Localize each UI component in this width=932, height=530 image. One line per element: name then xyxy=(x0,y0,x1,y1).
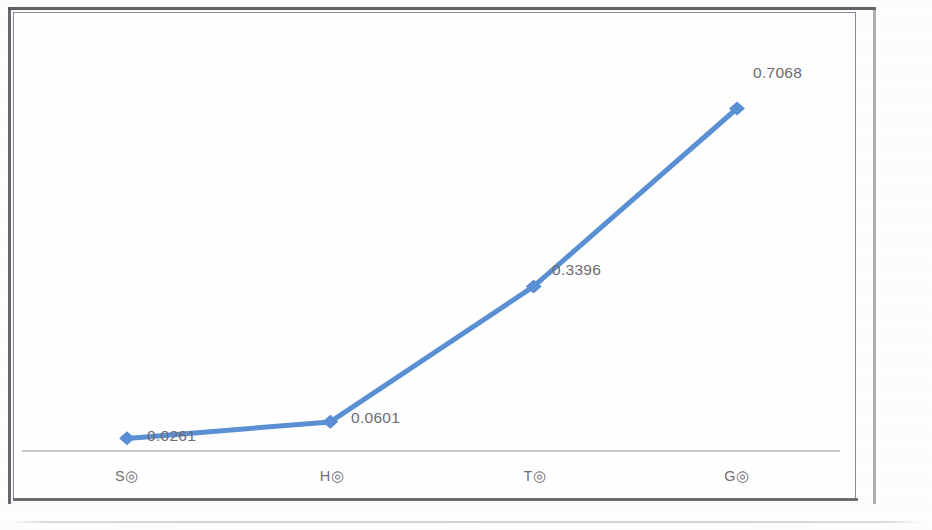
data-label-1: 0.0601 xyxy=(351,409,400,427)
scanned-page: 0.0261 0.0601 0.3396 0.7068 S◎ H◎ T◎ G◎ xyxy=(0,0,932,530)
document-rule-top xyxy=(8,7,876,10)
x-axis-label-1: H◎ xyxy=(272,468,392,484)
x-axis-labels: S◎ H◎ T◎ G◎ xyxy=(14,468,857,502)
data-label-3: 0.7068 xyxy=(753,64,802,82)
data-label-0: 0.0261 xyxy=(147,427,196,445)
x-axis-label-2: T◎ xyxy=(475,468,595,484)
chart-frame: 0.0261 0.0601 0.3396 0.7068 S◎ H◎ T◎ G◎ xyxy=(13,12,856,500)
data-point-marker-0 xyxy=(119,431,135,445)
plot-area: 0.0261 0.0601 0.3396 0.7068 S◎ H◎ T◎ G◎ xyxy=(14,13,857,501)
x-axis-label-3: G◎ xyxy=(677,468,797,484)
series-line xyxy=(127,109,737,439)
document-rule-left xyxy=(8,7,11,504)
document-rule-right xyxy=(873,7,876,504)
series-markers xyxy=(119,101,745,445)
scan-line-artifact xyxy=(10,521,922,523)
x-axis-label-0: S◎ xyxy=(67,468,187,484)
data-label-2: 0.3396 xyxy=(552,261,601,279)
line-chart-graphic xyxy=(14,13,857,501)
